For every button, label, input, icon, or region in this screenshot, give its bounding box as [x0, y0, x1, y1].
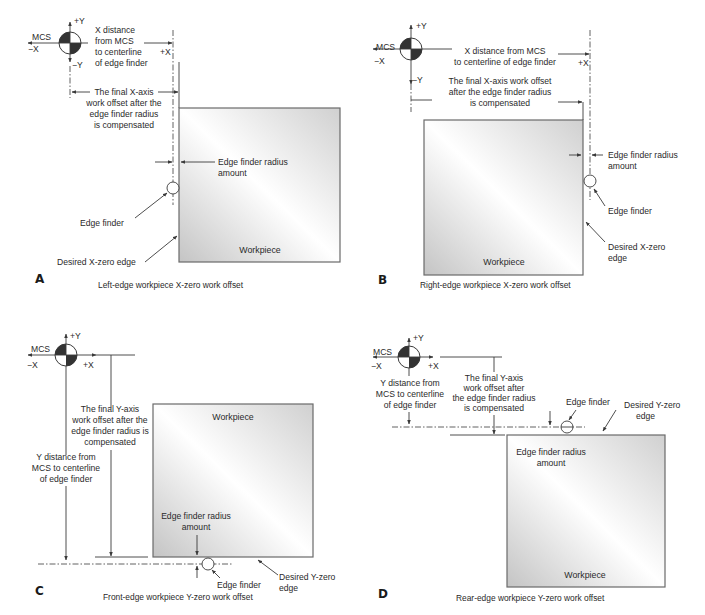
svg-text:of edge finder: of edge finder [40, 474, 93, 484]
svg-text:from MCS: from MCS [95, 36, 134, 46]
svg-text:X distance from MCS: X distance from MCS [464, 46, 545, 56]
plus-y-label: +Y [413, 333, 424, 343]
workpiece-label: Workpiece [212, 412, 254, 422]
svg-text:Edge finder radius: Edge finder radius [161, 511, 231, 521]
plus-y-label: +Y [416, 21, 427, 31]
edge-finder [584, 175, 596, 187]
x-distance-label: X distance from MCS to centerline of edg… [454, 46, 556, 67]
plus-y-label: +Y [74, 16, 85, 26]
svg-text:work offset after: work offset after [463, 383, 525, 393]
svg-text:is compensated: is compensated [94, 120, 154, 130]
desired-edge-label: Desired X-zero edge [608, 242, 666, 263]
minus-y-label: −Y [72, 60, 83, 70]
desired-edge-label: Desired Y-zero edge [279, 572, 336, 593]
final-offset-label: The final X-axis work offset after the e… [448, 76, 552, 108]
desired-edge-label: Desired X-zero edge [57, 257, 136, 267]
mcs-label: MCS [376, 42, 395, 52]
svg-text:of edge finder: of edge finder [95, 58, 148, 68]
svg-text:Edge finder radius: Edge finder radius [516, 447, 586, 457]
minus-x-label: −X [371, 361, 382, 371]
svg-text:work offset after the: work offset after the [71, 415, 148, 425]
svg-text:edge: edge [608, 253, 627, 263]
panel-letter: A [35, 272, 45, 286]
final-offset-label: The final Y-axis work offset after the e… [71, 404, 148, 447]
svg-text:Desired X-zero: Desired X-zero [608, 242, 666, 252]
svg-text:edge finder radius is: edge finder radius is [71, 426, 148, 436]
minus-x-label: −X [27, 360, 38, 370]
svg-text:edge: edge [636, 411, 655, 421]
svg-text:to centerline: to centerline [95, 47, 142, 57]
plus-x-label: +X [578, 58, 589, 68]
svg-text:amount: amount [537, 458, 566, 468]
plus-x-label: +X [428, 361, 439, 371]
minus-x-label: −X [28, 44, 39, 54]
edge-finder-label: Edge finder [608, 206, 652, 216]
panel-letter: D [378, 587, 388, 601]
svg-text:is compensated: is compensated [470, 98, 530, 108]
mcs-label: MCS [32, 32, 51, 42]
svg-text:The final X-axis work offset: The final X-axis work offset [448, 76, 552, 86]
panel-caption: Left-edge workpiece X-zero work offset [98, 280, 244, 290]
minus-y-label: −Y [412, 75, 423, 85]
svg-text:Y distance from: Y distance from [36, 452, 96, 462]
svg-text:Y distance from: Y distance from [380, 378, 440, 388]
panel-caption: Right-edge workpiece X-zero work offset [420, 280, 571, 290]
svg-text:Edge finder radius: Edge finder radius [608, 150, 678, 160]
y-distance-label: Y distance from MCS to centerline of edg… [32, 452, 101, 484]
svg-text:The final Y-axis: The final Y-axis [465, 373, 523, 383]
svg-text:The final X-axis: The final X-axis [94, 87, 153, 97]
workpiece-label: Workpiece [564, 570, 606, 580]
svg-text:MCS to centerline: MCS to centerline [376, 389, 445, 399]
svg-text:The final Y-axis: The final Y-axis [81, 404, 139, 414]
svg-text:edge: edge [279, 583, 298, 593]
desired-edge-label: Desired Y-zero edge [624, 400, 681, 421]
svg-text:work offset after the: work offset after the [85, 98, 162, 108]
svg-text:amount: amount [218, 168, 247, 178]
svg-text:to centerline of edge finder: to centerline of edge finder [454, 57, 556, 67]
panel-c: MCS −X +Y +X Y distance from MCS to cent… [27, 331, 336, 602]
edge-finder-work-offset-figure: MCS −X +Y −Y +X X distance from MCS to c… [0, 0, 705, 615]
workpiece [424, 120, 583, 275]
panel-a: MCS −X +Y −Y +X X distance from MCS to c… [28, 16, 340, 290]
panel-letter: B [378, 273, 387, 287]
svg-text:X distance: X distance [95, 25, 135, 35]
mcs-symbol: MCS −X +Y −Y [28, 16, 88, 70]
workpiece [179, 108, 340, 262]
workpiece-label: Workpiece [483, 257, 525, 267]
x-distance-label: X distance from MCS to centerline of edg… [95, 25, 148, 68]
svg-text:Edge finder radius: Edge finder radius [218, 157, 288, 167]
edge-finder [167, 182, 179, 194]
radius-amount-label: Edge finder radius amount [608, 150, 678, 171]
edge-finder-label: Edge finder [80, 218, 124, 228]
workpiece [153, 404, 313, 557]
minus-x-label: −X [374, 56, 385, 66]
mcs-label: MCS [31, 344, 50, 354]
svg-text:amount: amount [608, 161, 637, 171]
panel-caption: Rear-edge workpiece Y-zero work offset [456, 593, 605, 603]
plus-x-label: +X [160, 47, 171, 57]
mcs-symbol: MCS −X +Y −Y [373, 21, 452, 85]
svg-text:Desired Y-zero: Desired Y-zero [624, 400, 681, 410]
workpiece-label: Workpiece [239, 245, 281, 255]
panel-letter: C [35, 584, 44, 598]
svg-text:Desired Y-zero: Desired Y-zero [279, 572, 336, 582]
mcs-symbol: MCS −X +Y +X [371, 333, 502, 371]
final-offset-label: The final X-axis work offset after the e… [85, 87, 162, 130]
svg-text:is compensated: is compensated [464, 403, 524, 413]
svg-text:of edge finder: of edge finder [384, 400, 437, 410]
svg-text:after the edge finder radius: after the edge finder radius [449, 87, 552, 97]
panel-b: MCS −X +Y −Y X distance from MCS to cent… [373, 21, 678, 290]
panel-d: MCS −X +Y +X Y distance from MCS to cent… [371, 333, 681, 603]
workpiece [507, 435, 665, 587]
plus-x-label: +X [83, 360, 94, 370]
panel-caption: Front-edge workpiece Y-zero work offset [103, 592, 253, 602]
svg-text:amount: amount [182, 522, 211, 532]
edge-finder-label: Edge finder [566, 397, 610, 407]
edge-finder [202, 558, 214, 570]
edge-finder-label: Edge finder [217, 580, 261, 590]
mcs-label: MCS [373, 347, 392, 357]
y-distance-label: Y distance from MCS to centerline of edg… [376, 378, 445, 410]
svg-text:edge finder radius: edge finder radius [90, 109, 159, 119]
final-offset-label: The final Y-axis work offset after the e… [452, 373, 535, 413]
svg-text:the edge finder radius: the edge finder radius [452, 393, 535, 403]
